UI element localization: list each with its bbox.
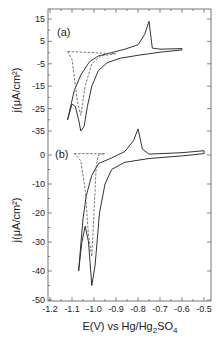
y-tick-label-panel-a: -5: [37, 59, 45, 69]
series-b-dashed: [74, 154, 105, 257]
x-tick-label: -1.0: [86, 304, 102, 314]
x-axis-label: E(V) vs Hg/Hg2SO4: [82, 320, 178, 335]
y-tick-label-panel-b: -50: [32, 295, 45, 305]
y-tick-label-panel-a: -35: [32, 126, 45, 136]
x-tick-label: -1.1: [64, 304, 80, 314]
x-tick-label: -0.5: [196, 304, 212, 314]
y-tick-label-panel-b: -40: [32, 266, 45, 276]
panel-label-b: (b): [55, 148, 68, 160]
series-a-solid: [68, 21, 182, 131]
series-b-solid: [79, 129, 204, 286]
x-label-mid: SO: [157, 320, 173, 332]
x-tick-label: -0.7: [152, 304, 168, 314]
x-tick-label: -0.6: [174, 304, 190, 314]
x-label-sub2: 4: [173, 326, 178, 335]
data-series: [68, 21, 204, 285]
y-tick-label-panel-a: -15: [32, 81, 45, 91]
x-label-pre: E(V) vs Hg/Hg: [82, 320, 152, 332]
panel-label-a: (a): [57, 26, 70, 38]
y-tick-label-panel-b: -30: [32, 237, 45, 247]
x-tick-label: -0.8: [130, 304, 146, 314]
y-axis-label-b: j(μA/cm²): [10, 198, 22, 244]
y-tick-label-panel-b: 0: [40, 150, 45, 160]
cyclic-voltammetry-chart: -1.2-1.1-1.0-0.9-0.8-0.7-0.6-0.5155-5-15…: [0, 0, 219, 343]
y-tick-label-panel-a: 15: [35, 14, 45, 24]
y-tick-label-panel-a: -25: [32, 104, 45, 114]
x-tick-label: -0.9: [108, 304, 124, 314]
y-tick-label-panel-a: 5: [40, 36, 45, 46]
x-tick-label: -1.2: [42, 304, 58, 314]
y-tick-label-panel-b: -20: [32, 208, 45, 218]
y-tick-label-panel-b: -10: [32, 179, 45, 189]
y-axis-label-a: j(μA/cm²): [10, 68, 22, 114]
